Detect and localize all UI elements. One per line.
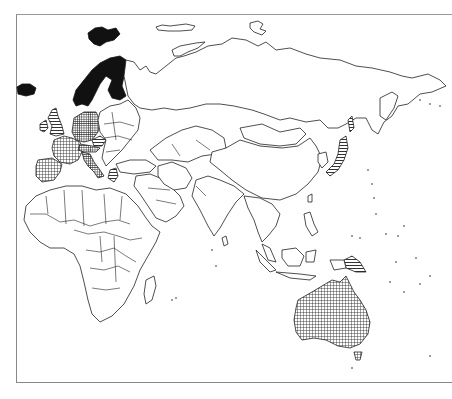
region-svalbard [88, 27, 120, 46]
region-germany-poland [72, 112, 100, 142]
region-ireland [40, 120, 48, 132]
region-new-guinea [344, 256, 366, 272]
region-africa [24, 186, 160, 322]
region-india [192, 176, 244, 236]
region-arctic-islands [156, 24, 195, 31]
region-australia [294, 276, 370, 348]
region-iceland [17, 84, 36, 96]
region-turkey [116, 160, 156, 174]
region-greece [108, 168, 118, 182]
region-madagascar [144, 276, 156, 304]
region-uk [48, 108, 64, 136]
region-italy [82, 152, 104, 178]
region-scandinavia [73, 56, 128, 106]
region-philippines [304, 212, 318, 236]
region-russia [124, 38, 446, 134]
region-southeast-asia [244, 196, 280, 242]
region-eastern-europe [98, 100, 140, 166]
region-tasmania [354, 352, 362, 360]
region-japan [326, 136, 348, 176]
region-iberia [36, 158, 62, 182]
world-map [0, 0, 452, 399]
